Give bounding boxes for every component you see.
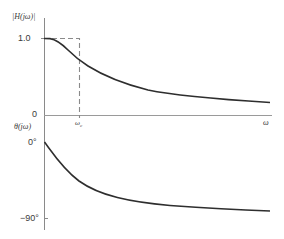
- phase-axis-label: θ(jω): [14, 123, 31, 131]
- phase-tick-0: 0°: [28, 138, 37, 147]
- dashed-cutoff-guide: [44, 39, 80, 119]
- magnitude-curve: [44, 39, 270, 103]
- cutoff-frequency-label: ωc: [75, 120, 82, 128]
- bode-plot-svg: [0, 0, 284, 239]
- phase-curve: [45, 142, 271, 211]
- magnitude-tick-1: 1.0: [18, 34, 31, 43]
- phase-tick-minus90: −90°: [20, 214, 39, 223]
- magnitude-axis-label: |H(jω)|: [12, 13, 35, 21]
- omega-axis-label: ω: [263, 119, 269, 127]
- magnitude-tick-0: 0: [32, 110, 37, 119]
